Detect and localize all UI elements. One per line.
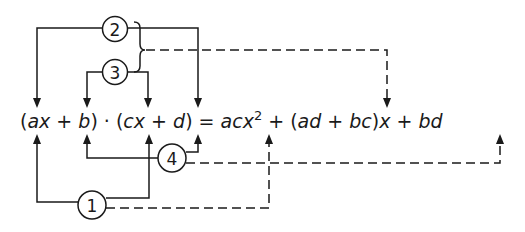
svg-text:4: 4 xyxy=(167,149,178,169)
arrow-up-icon xyxy=(83,134,91,144)
foil-diagram: (ax + b) · (cx + d) = acx2 + (ad + bc)x … xyxy=(0,0,525,232)
last-term-dashed-connector xyxy=(186,143,500,163)
arrow-up-icon xyxy=(496,134,504,144)
arrow-down-icon xyxy=(33,98,41,108)
arrow-down-icon xyxy=(83,98,91,108)
middle-term-dashed-connector xyxy=(146,50,387,100)
brace-icon xyxy=(134,22,145,72)
arrow-down-icon xyxy=(383,98,391,108)
svg-text:2: 2 xyxy=(110,20,121,40)
marker-1: 1 xyxy=(78,191,106,219)
arrow-up-icon xyxy=(265,134,273,144)
svg-text:3: 3 xyxy=(110,63,121,83)
arrow-up-icon xyxy=(33,134,41,144)
marker-3: 3 xyxy=(103,60,128,85)
arrow-down-icon xyxy=(144,98,152,108)
svg-text:1: 1 xyxy=(87,196,98,216)
arrow-up-icon xyxy=(194,134,202,144)
marker-2: 2 xyxy=(103,17,128,42)
equation: (ax + b) · (cx + d) = acx2 + (ad + bc)x … xyxy=(20,108,444,132)
marker-4: 4 xyxy=(158,144,186,172)
arrow-down-icon xyxy=(194,98,202,108)
arrow-up-icon xyxy=(145,134,153,144)
